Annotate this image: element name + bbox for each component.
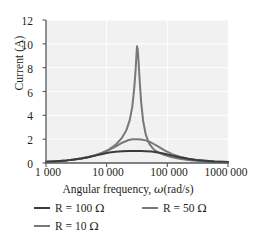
- y-tick-label: 8: [27, 64, 33, 76]
- ohm-symbol: Ω: [89, 219, 99, 233]
- chart-legend: R = 100 Ω R = 50 Ω R = 10 Ω: [0, 199, 256, 242]
- legend-prefix: R =: [55, 220, 75, 232]
- x-tick-label: 10 000: [92, 166, 124, 179]
- x-axis-tick-labels: 1 000 10 000 100 000 1000 000: [0, 166, 256, 182]
- x-tick-label: 100 000: [150, 166, 187, 179]
- x-tick-label: 1000 000: [204, 166, 247, 179]
- ohm-symbol: Ω: [95, 201, 105, 215]
- y-tick-label: 2: [27, 135, 33, 147]
- legend-prefix: R =: [55, 202, 75, 214]
- x-axis-title: Angular frequency, ω(rad/s): [0, 182, 256, 196]
- legend-swatch-r50: [142, 207, 158, 210]
- legend-swatch-r100: [34, 207, 50, 210]
- y-tick-label: 4: [27, 111, 33, 123]
- legend-prefix: R =: [163, 202, 183, 214]
- y-tick-label: 6: [27, 88, 33, 100]
- legend-row-1: R = 100 Ω R = 50 Ω: [0, 199, 256, 217]
- legend-label-r10: R = 10 Ω: [55, 219, 99, 233]
- legend-swatch-r10: [34, 225, 50, 228]
- legend-item-r100[interactable]: R = 100 Ω: [16, 199, 128, 217]
- x-tick-label: 1 000: [35, 166, 61, 179]
- y-tick-label: 10: [22, 40, 34, 52]
- resonance-current-chart: Current (A) 12 10 8 6 4 2 0 1 000 10 000…: [0, 0, 256, 242]
- legend-item-r10[interactable]: R = 10 Ω: [16, 217, 128, 235]
- legend-label-r100: R = 100 Ω: [55, 201, 105, 215]
- legend-row-2: R = 10 Ω: [0, 217, 256, 235]
- legend-item-r50[interactable]: R = 50 Ω: [128, 199, 240, 217]
- ohm-symbol: Ω: [197, 201, 207, 215]
- x-axis-title-prefix: Angular frequency,: [63, 183, 155, 195]
- y-tick-label: 12: [22, 16, 34, 28]
- legend-value: 100: [75, 202, 92, 214]
- legend-item-empty: [128, 217, 240, 235]
- legend-label-r50: R = 50 Ω: [163, 201, 207, 215]
- legend-value: 50: [183, 202, 195, 214]
- x-axis-title-suffix: (rad/s): [163, 183, 193, 195]
- legend-value: 10: [75, 220, 87, 232]
